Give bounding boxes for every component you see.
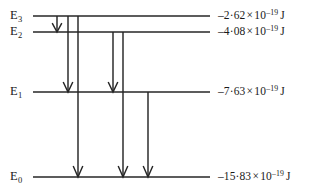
level-label-E3: E3 bbox=[10, 9, 22, 22]
level-lines-group bbox=[33, 16, 210, 177]
energy-value-E1: –7·63×10–19J bbox=[218, 86, 285, 98]
level-label-E2: E2 bbox=[10, 25, 22, 38]
energy-value-E3: –2·62×10–19J bbox=[218, 10, 285, 22]
energy-value-E3-exponent: –19 bbox=[266, 8, 278, 17]
multiplication-sign: × bbox=[245, 85, 254, 97]
energy-value-E2: –4·08×10–19J bbox=[218, 26, 285, 38]
energy-value-E3-unit: J bbox=[278, 9, 285, 21]
transition-arrow-e3-e1 bbox=[63, 16, 73, 92]
transition-arrows-group bbox=[52, 16, 153, 177]
energy-value-E2-base: 10 bbox=[254, 25, 266, 37]
level-label-E1-subscript: 1 bbox=[18, 90, 22, 100]
energy-value-E0: –15·83×10–19J bbox=[218, 171, 291, 183]
level-label-E0-subscript: 0 bbox=[18, 175, 22, 185]
transition-arrow-e3-e2 bbox=[52, 16, 62, 32]
energy-value-E0-exponent: –19 bbox=[272, 169, 284, 178]
level-label-E2-subscript: 2 bbox=[18, 30, 22, 40]
energy-value-E0-mantissa: –15·83 bbox=[218, 170, 251, 182]
multiplication-sign: × bbox=[245, 9, 254, 21]
level-label-E1-base: E bbox=[10, 84, 18, 98]
multiplication-sign: × bbox=[251, 170, 260, 182]
level-label-E3-subscript: 3 bbox=[18, 14, 22, 24]
level-label-E3-base: E bbox=[10, 8, 18, 22]
energy-value-E1-base: 10 bbox=[254, 85, 266, 97]
transition-arrow-e3-e0 bbox=[73, 16, 83, 177]
transition-arrow-e2-e0 bbox=[118, 32, 128, 177]
transition-arrow-e2-e1 bbox=[108, 32, 118, 92]
transition-arrow-e1-e0 bbox=[143, 92, 153, 177]
energy-value-E1-mantissa: –7·63 bbox=[218, 85, 245, 97]
energy-value-E0-base: 10 bbox=[260, 170, 272, 182]
energy-value-E2-unit: J bbox=[278, 25, 285, 37]
energy-value-E2-mantissa: –4·08 bbox=[218, 25, 245, 37]
level-label-E1: E1 bbox=[10, 85, 22, 98]
level-label-E2-base: E bbox=[10, 24, 18, 38]
energy-value-E3-mantissa: –2·62 bbox=[218, 9, 245, 21]
energy-value-E0-unit: J bbox=[284, 170, 291, 182]
energy-value-E1-unit: J bbox=[278, 85, 285, 97]
level-label-E0: E0 bbox=[10, 170, 22, 183]
energy-value-E2-exponent: –19 bbox=[266, 24, 278, 33]
multiplication-sign: × bbox=[245, 25, 254, 37]
energy-value-E3-base: 10 bbox=[254, 9, 266, 21]
energy-level-diagram: E3 E2 E1 E0 –2·62×10–19J –4·08×10–19J –7… bbox=[0, 0, 310, 194]
level-label-E0-base: E bbox=[10, 169, 18, 183]
energy-value-E1-exponent: –19 bbox=[266, 84, 278, 93]
